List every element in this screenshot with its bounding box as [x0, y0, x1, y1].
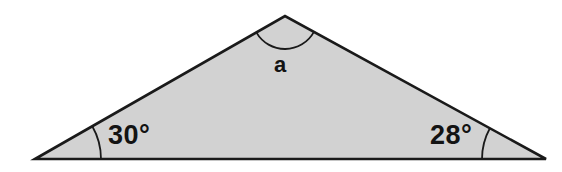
triangle-figure [0, 0, 562, 172]
right-angle-label: 28° [430, 122, 472, 149]
triangle-diagram: 30° 28° a [0, 0, 562, 172]
apex-angle-label: a [274, 54, 286, 76]
left-angle-label: 30° [108, 122, 150, 149]
